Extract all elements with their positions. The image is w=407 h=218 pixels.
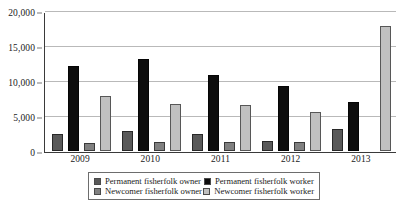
bar[interactable] bbox=[192, 134, 203, 151]
y-axis: 05,00010,00015,00020,000 bbox=[0, 13, 42, 154]
legend-swatch-icon bbox=[204, 178, 211, 185]
bar[interactable] bbox=[278, 86, 289, 151]
x-axis: 20092010201120122013 bbox=[45, 154, 396, 169]
bar-chart: 05,00010,00015,00020,000 200920102011201… bbox=[0, 0, 407, 218]
plot-area bbox=[44, 13, 396, 153]
legend-swatch-icon bbox=[94, 178, 101, 185]
y-tick-mark bbox=[37, 83, 42, 84]
bar[interactable] bbox=[52, 134, 63, 151]
y-tick-mark bbox=[37, 118, 42, 119]
bar[interactable] bbox=[310, 112, 321, 151]
x-tick-label: 2012 bbox=[256, 154, 326, 169]
legend-item-label: Newcomer fisherfolk worker bbox=[214, 186, 314, 196]
bar-group-2010 bbox=[116, 13, 186, 151]
x-tick-label: 2009 bbox=[45, 154, 115, 169]
legend-item-label: Permanent fisherfolk worker bbox=[215, 176, 314, 186]
chart-legend: Permanent fisherfolk owner Permanent fis… bbox=[88, 172, 320, 200]
bar-group-2011 bbox=[186, 13, 256, 151]
bar[interactable] bbox=[208, 75, 219, 151]
bar[interactable] bbox=[240, 105, 251, 151]
gridline bbox=[45, 151, 396, 152]
bar[interactable] bbox=[380, 26, 391, 151]
bar[interactable] bbox=[122, 131, 133, 151]
bar[interactable] bbox=[224, 142, 235, 151]
legend-item-label: Permanent fisherfolk owner bbox=[105, 176, 201, 186]
y-tick-mark bbox=[37, 13, 42, 14]
bar[interactable] bbox=[332, 129, 343, 151]
bar[interactable] bbox=[68, 66, 79, 151]
legend-row: Permanent fisherfolk owner Permanent fis… bbox=[94, 176, 314, 186]
bar[interactable] bbox=[348, 102, 359, 151]
legend-item-newcomer-fisherfolk-worker[interactable]: Newcomer fisherfolk worker bbox=[203, 186, 314, 196]
bar-groups bbox=[46, 13, 396, 151]
legend-row: Newcomer fisherfolk owner Newcomer fishe… bbox=[94, 186, 314, 196]
x-tick-label: 2011 bbox=[185, 154, 255, 169]
bar[interactable] bbox=[262, 141, 273, 152]
y-tick-label: 10,000 bbox=[8, 78, 35, 88]
y-tick-mark bbox=[37, 153, 42, 154]
y-tick-mark bbox=[37, 48, 42, 49]
legend-item-permanent-fisherfolk-owner[interactable]: Permanent fisherfolk owner bbox=[94, 176, 204, 186]
bar[interactable] bbox=[154, 142, 165, 151]
legend-item-newcomer-fisherfolk-owner[interactable]: Newcomer fisherfolk owner bbox=[94, 186, 203, 196]
bar[interactable] bbox=[100, 96, 111, 151]
y-tick-label: 15,000 bbox=[8, 43, 35, 53]
gridline bbox=[45, 11, 396, 12]
bar[interactable] bbox=[170, 104, 181, 151]
y-tick-label: 20,000 bbox=[8, 8, 35, 18]
legend-swatch-icon bbox=[203, 188, 210, 195]
x-tick-label: 2013 bbox=[326, 154, 396, 169]
bar-group-2012 bbox=[256, 13, 326, 151]
legend-item-permanent-fisherfolk-worker[interactable]: Permanent fisherfolk worker bbox=[204, 176, 314, 186]
bar[interactable] bbox=[138, 59, 149, 151]
bar-group-2013 bbox=[326, 13, 396, 151]
y-tick-label: 5,000 bbox=[13, 113, 35, 123]
bar[interactable] bbox=[84, 143, 95, 151]
legend-item-label: Newcomer fisherfolk owner bbox=[105, 186, 202, 196]
legend-swatch-icon bbox=[94, 188, 101, 195]
bar[interactable] bbox=[294, 142, 305, 151]
x-tick-label: 2010 bbox=[115, 154, 185, 169]
bar-group-2009 bbox=[46, 13, 116, 151]
y-tick-label: 0 bbox=[30, 148, 35, 158]
